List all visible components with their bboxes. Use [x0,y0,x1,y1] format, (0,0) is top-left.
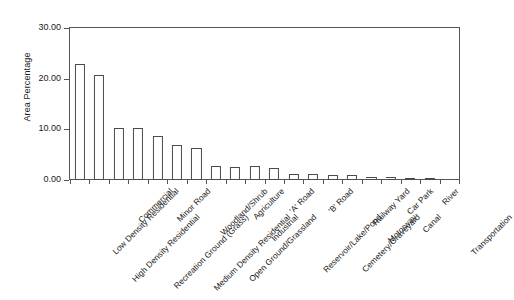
bar-slot [167,28,186,180]
y-axis-tick-mark [64,180,69,181]
bar-slot [401,28,420,180]
bar [250,166,260,180]
bar-slot [420,28,439,180]
x-axis-tick-mark [323,180,324,184]
bar-slot [109,28,128,180]
bar-slot [128,28,147,180]
x-axis-tick-mark [440,180,441,184]
bar-slot [284,28,303,180]
x-axis-tick-mark [148,180,149,184]
y-axis-tick-mark [64,79,69,80]
x-axis-tick-mark [89,180,90,184]
bar [94,75,104,180]
x-axis-tick-mark [381,180,382,184]
x-axis-tick-mark [459,180,460,184]
x-axis-tick-mark [362,180,363,184]
bars-group [70,28,459,180]
x-axis-tick-mark [226,180,227,184]
bar [211,166,221,180]
bar [114,128,124,180]
y-axis-tick-label: 10.00 [38,123,61,133]
bar-slot [323,28,342,180]
x-axis-ticks [70,180,459,185]
x-axis-label: Canal [421,212,444,235]
x-axis-tick-mark [70,180,71,184]
x-axis-tick-mark [342,180,343,184]
bar-slot [265,28,284,180]
x-axis-label: Motorway [386,212,419,245]
y-axis-tick-mark [64,28,69,29]
x-axis-tick-mark [284,180,285,184]
y-axis-tick-mark [64,129,69,130]
x-axis-tick-mark [265,180,266,184]
x-axis-tick-mark [206,180,207,184]
x-axis-label: 'A' Road [287,186,316,215]
bar-slot [381,28,400,180]
y-axis-tick-label: 30.00 [38,22,61,32]
bar-slot [206,28,225,180]
x-axis-label: Commercial [136,186,175,225]
x-axis-tick-mark [109,180,110,184]
bar-slot [440,28,459,180]
bar-slot [362,28,381,180]
bar [172,145,182,180]
bar-slot [342,28,361,180]
x-axis-tick-mark [245,180,246,184]
x-axis-label: River [440,186,461,207]
y-axis-title: Area Percentage [22,27,32,147]
x-axis-tick-mark [420,180,421,184]
bar-slot [148,28,167,180]
bar-slot [245,28,264,180]
x-axis-label: Transportation [469,212,514,257]
x-axis-label: 'B' Road [326,186,355,215]
bar [230,167,240,180]
bar-slot [70,28,89,180]
x-axis-labels: Low Density ResidentialHigh Density Resi… [70,186,470,296]
bar-slot [303,28,322,180]
x-axis-tick-mark [128,180,129,184]
y-axis-tick-label: 20.00 [38,73,61,83]
x-axis-tick-mark [167,180,168,184]
y-axis-tick-label: 0.00 [43,174,61,184]
bar-slot [187,28,206,180]
x-axis-tick-mark [187,180,188,184]
bar [75,64,85,180]
x-axis-tick-mark [303,180,304,184]
x-axis-tick-mark [401,180,402,184]
bar [152,136,162,180]
bar [133,128,143,180]
bar [269,168,279,180]
bar-slot [89,28,108,180]
bar-slot [226,28,245,180]
bar [191,148,201,180]
